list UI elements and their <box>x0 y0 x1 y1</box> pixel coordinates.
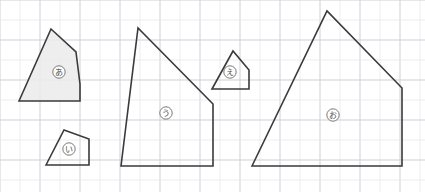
label-text: あ <box>55 68 63 77</box>
label-text: い <box>65 145 73 154</box>
shape-label-shape-a: あ <box>53 66 65 78</box>
shape-label-shape-o: お <box>327 109 339 121</box>
figure-canvas: あいうえお <box>0 0 425 192</box>
label-text: う <box>162 109 170 118</box>
label-text: え <box>226 68 234 77</box>
label-text: お <box>329 111 337 120</box>
shape-label-shape-u: う <box>160 107 172 119</box>
geometry-figure: あいうえお <box>0 0 425 192</box>
shape-label-shape-e: え <box>224 66 236 78</box>
shape-label-shape-i: い <box>63 143 75 155</box>
